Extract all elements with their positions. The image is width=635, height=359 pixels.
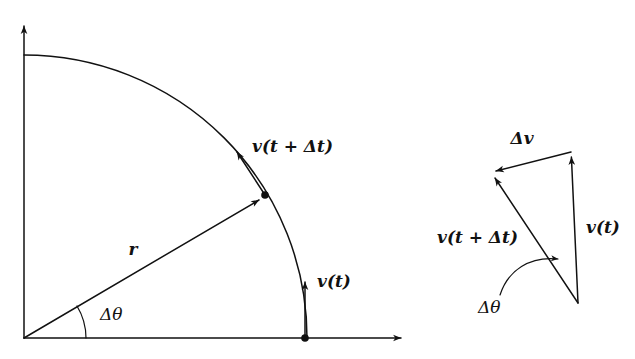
delta-v-vector: [496, 152, 571, 171]
velocity-vector-t-plus-dt: [237, 152, 265, 195]
figure-root: r Δθ v(t) v(t + Δt) Δv: [0, 0, 635, 359]
label-velocity-t-right: v(t): [586, 217, 620, 237]
label-radius: r: [129, 239, 139, 259]
radius-vector: [24, 200, 259, 338]
label-delta-v: Δv: [509, 128, 534, 148]
delta-theta-arc: [77, 306, 86, 338]
label-delta-theta-left: Δθ: [99, 304, 123, 324]
left-diagram: r Δθ v(t) v(t + Δt): [24, 26, 401, 342]
delta-theta-arc-right: [500, 259, 558, 295]
label-velocity-t-plus-dt-left: v(t + Δt): [252, 136, 333, 156]
label-velocity-t-plus-dt-right: v(t + Δt): [437, 227, 518, 247]
label-delta-theta-right: Δθ: [477, 297, 501, 317]
label-velocity-t-left: v(t): [317, 271, 351, 291]
velocity-vector-t-right: [571, 157, 578, 303]
figure-canvas: r Δθ v(t) v(t + Δt) Δv: [0, 0, 635, 359]
right-diagram: Δv v(t) v(t + Δt) Δθ: [437, 128, 620, 317]
